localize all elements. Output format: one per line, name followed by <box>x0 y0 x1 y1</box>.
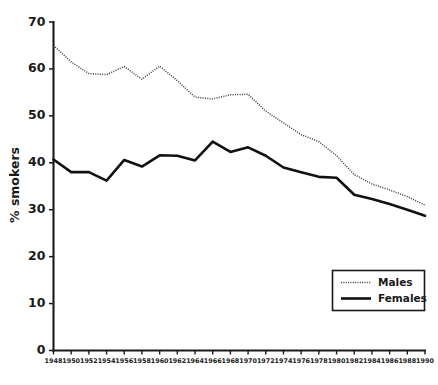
x-tick-label: 1950 <box>62 357 80 365</box>
x-tick-label: 1984 <box>363 357 381 365</box>
x-tick-label: 1958 <box>133 357 151 365</box>
series-line-males <box>54 45 426 205</box>
x-tick-label: 1978 <box>310 357 328 365</box>
legend-label-females: Females <box>378 292 427 304</box>
x-tick-label: 1960 <box>151 357 169 365</box>
x-tick-label: 1976 <box>292 357 310 365</box>
x-axis-ticks: 1948195019521954195619581960196219641966… <box>45 351 435 366</box>
x-tick-label: 1982 <box>345 357 363 365</box>
x-tick-label: 1972 <box>257 357 275 365</box>
x-tick-label: 1986 <box>381 357 399 365</box>
x-tick-label: 1952 <box>80 357 98 365</box>
x-tick-label: 1966 <box>204 357 222 365</box>
x-tick-label: 1968 <box>222 357 240 365</box>
y-axis-ticks: 010203040506070 <box>28 14 53 358</box>
x-tick-label: 1956 <box>115 357 133 365</box>
y-tick-label: 40 <box>28 154 46 169</box>
x-tick-label: 1964 <box>186 357 204 365</box>
legend-label-males: Males <box>378 276 413 288</box>
y-tick-label: 70 <box>28 14 46 29</box>
x-tick-label: 1980 <box>328 357 346 365</box>
x-tick-label: 1988 <box>398 357 416 365</box>
series-line-females <box>54 142 426 216</box>
y-tick-label: 20 <box>28 248 46 263</box>
x-tick-label: 1970 <box>239 357 257 365</box>
x-tick-label: 1948 <box>45 357 63 365</box>
y-tick-label: 30 <box>28 201 46 216</box>
chart-canvas: 010203040506070 194819501952195419561958… <box>0 0 438 385</box>
y-tick-label: 10 <box>28 295 46 310</box>
x-tick-label: 1974 <box>275 357 293 365</box>
y-tick-label: 0 <box>37 342 46 357</box>
y-axis-title: % smokers <box>7 147 22 223</box>
x-tick-label: 1954 <box>98 357 116 365</box>
y-tick-label: 50 <box>28 107 46 122</box>
legend: Males Females <box>333 271 427 311</box>
smoking-prevalence-line-chart: 010203040506070 194819501952195419561958… <box>0 0 438 385</box>
y-tick-label: 60 <box>28 60 46 75</box>
x-tick-label: 1962 <box>168 357 186 365</box>
x-tick-label: 1990 <box>416 357 434 365</box>
